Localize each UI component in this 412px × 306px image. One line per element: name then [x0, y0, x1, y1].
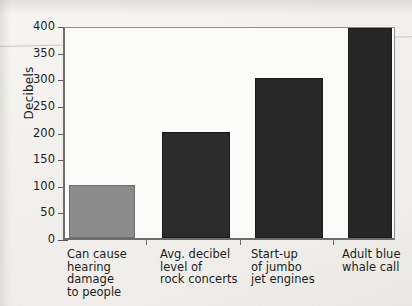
- y-tick-label-200: 200: [25, 128, 55, 140]
- y-tick-label-150: 150: [25, 154, 55, 166]
- x-axis-label-line: jet engines: [251, 273, 315, 286]
- y-tick-label-350: 350: [25, 48, 55, 60]
- y-tick-label-300: 300: [25, 74, 55, 86]
- bar-1: [69, 185, 135, 238]
- x-axis-label-1: Can causehearingdamageto people: [67, 248, 127, 298]
- x-axis-label-line: Avg. decibel: [160, 248, 237, 261]
- x-axis-label-line: to people: [67, 286, 127, 299]
- y-tick-label-250: 250: [25, 101, 55, 113]
- x-axis-label-line: Adult blue: [342, 248, 400, 261]
- x-axis-label-line: damage: [67, 273, 127, 286]
- bar-3: [255, 78, 323, 238]
- x-tick-1: [146, 240, 147, 245]
- chart-page: Decibels 050100150200250300350400 Can ca…: [0, 0, 412, 306]
- x-axis-label-line: whale call: [342, 261, 400, 274]
- y-tick-0: [58, 240, 68, 241]
- x-tick-2: [240, 240, 241, 245]
- plot-area: [63, 27, 395, 240]
- scan-shadow-top: [0, 0, 412, 14]
- y-tick-label-100: 100: [25, 181, 55, 193]
- x-axis-label-line: rock concerts: [160, 273, 237, 286]
- y-axis-title: Decibels: [22, 48, 36, 138]
- x-axis-label-line: Start-up: [251, 248, 315, 261]
- scan-shadow-left: [0, 0, 10, 306]
- x-axis-label-3: Start-upof jumbojet engines: [251, 248, 315, 286]
- bars-group: [65, 28, 394, 238]
- bar-4: [348, 28, 392, 238]
- x-axis-label-line: Can cause: [67, 248, 127, 261]
- x-axis-label-2: Avg. decibellevel ofrock concerts: [160, 248, 237, 286]
- x-axis-label-4: Adult bluewhale call: [342, 248, 400, 273]
- x-tick-3: [333, 240, 334, 245]
- bar-2: [162, 132, 230, 239]
- y-tick-label-0: 0: [25, 234, 55, 246]
- y-tick-label-50: 50: [25, 207, 55, 219]
- y-tick-label-400: 400: [25, 21, 55, 33]
